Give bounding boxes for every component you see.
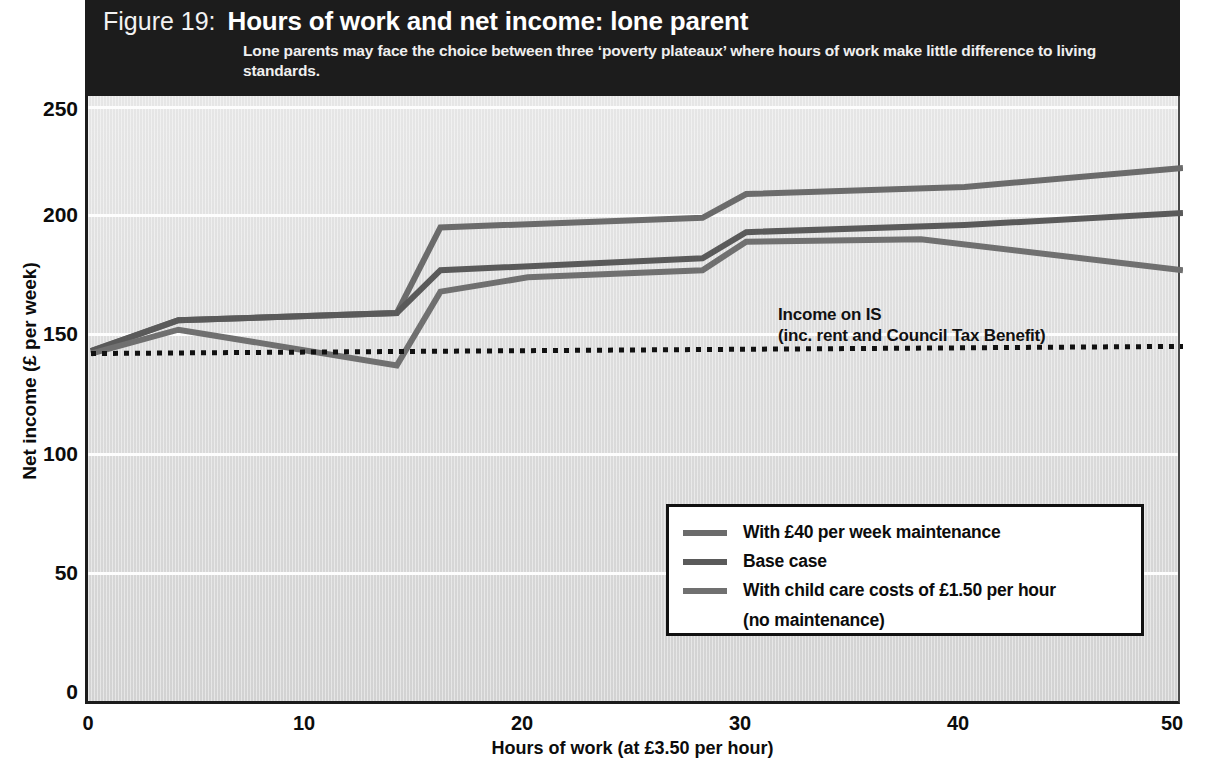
figure-container: Figure 19: Hours of work and net income:… [0, 0, 1205, 761]
x-axis-tick-30: 30 [729, 712, 751, 735]
legend-label-child-care-continued: (no maintenance) [743, 610, 885, 631]
x-axis-tick-40: 40 [947, 712, 969, 735]
legend-item-with-maintenance: With £40 per week maintenance [683, 518, 1141, 547]
y-axis-tick-0: 0 [0, 680, 78, 704]
chart-legend: With £40 per week maintenance Base case … [666, 504, 1144, 636]
x-axis-tick-50: 50 [1161, 712, 1183, 735]
legend-label-child-care: With child care costs of £1.50 per hour [743, 580, 1056, 601]
legend-item-child-care: With child care costs of £1.50 per hour [683, 576, 1141, 605]
reference-line-income-on-is [91, 346, 1183, 353]
legend-swatch-child-care [683, 588, 727, 594]
legend-swatch-with-maintenance [683, 530, 727, 536]
x-axis-tick-0: 0 [82, 712, 93, 735]
legend-item-base-case: Base case [683, 547, 1141, 576]
income-on-is-annotation: Income on IS (inc. rent and Council Tax … [778, 304, 1046, 347]
figure-title: Hours of work and net income: lone paren… [228, 6, 749, 37]
y-axis-tick-50: 50 [0, 561, 78, 585]
income-on-is-line-2: (inc. rent and Council Tax Benefit) [778, 325, 1046, 346]
legend-label-with-maintenance: With £40 per week maintenance [743, 522, 1001, 543]
income-on-is-line-1: Income on IS [778, 304, 1046, 325]
y-axis-tick-250: 250 [0, 97, 78, 121]
figure-title-row: Figure 19: Hours of work and net income:… [103, 6, 1166, 37]
x-axis-tick-20: 20 [511, 712, 533, 735]
figure-header-banner: Figure 19: Hours of work and net income:… [85, 0, 1180, 96]
figure-subtitle: Lone parents may face the choice between… [243, 41, 1166, 82]
figure-number: Figure 19: [103, 7, 216, 36]
legend-item-child-care-continued: (no maintenance) [683, 605, 1141, 636]
legend-swatch-base-case [683, 559, 727, 565]
y-axis-title: Net income (£ per week) [19, 181, 41, 561]
x-axis-tick-10: 10 [293, 712, 315, 735]
x-axis-title: Hours of work (at £3.50 per hour) [85, 738, 1180, 759]
legend-label-base-case: Base case [743, 551, 827, 572]
